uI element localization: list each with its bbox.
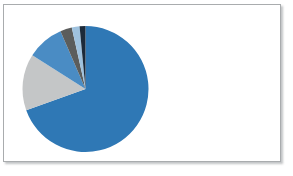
screenshot-root (0, 0, 293, 176)
pie-slice-group (22, 26, 148, 152)
chart-figure-frame (3, 4, 281, 162)
pie-chart (4, 5, 282, 163)
pie-chart-plot-area (4, 5, 282, 163)
